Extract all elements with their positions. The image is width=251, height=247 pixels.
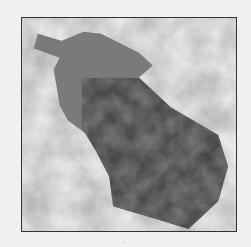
caption-mark: . <box>122 236 125 245</box>
image-frame <box>21 17 237 232</box>
eggplant-illustration <box>22 18 236 231</box>
